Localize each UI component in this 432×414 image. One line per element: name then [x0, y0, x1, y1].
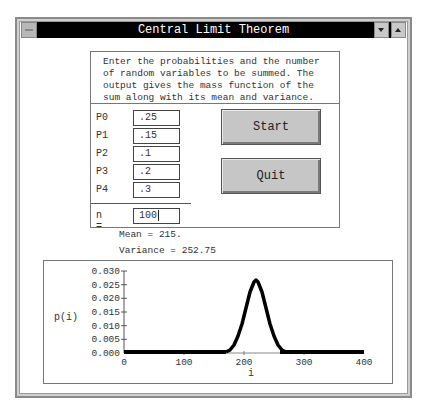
p3-label: P3 — [96, 166, 108, 177]
window-title: Central Limit Theorem — [21, 22, 406, 38]
p1-label: P1 — [96, 130, 108, 141]
quit-button[interactable]: Quit — [221, 158, 321, 194]
p1-field[interactable]: .15 — [133, 128, 180, 144]
svg-text:0: 0 — [121, 357, 127, 368]
x-axis-label: i — [248, 368, 254, 379]
p4-label: P4 — [96, 184, 108, 195]
p4-field[interactable]: .3 — [133, 182, 180, 198]
svg-text:0.030: 0.030 — [91, 266, 120, 277]
app-window: Central Limit Theorem Enter the probabil… — [15, 17, 412, 398]
n-value: 100 — [139, 210, 157, 221]
n-label: n = — [96, 210, 102, 232]
title-bar[interactable]: Central Limit Theorem — [21, 22, 406, 38]
input-panel: Enter the probabilities and the number o… — [90, 51, 340, 228]
p3-field[interactable]: .2 — [133, 164, 180, 180]
svg-text:0.015: 0.015 — [91, 307, 120, 318]
minimize-arrow-icon — [378, 28, 384, 32]
svg-text:300: 300 — [295, 357, 312, 368]
maximize-button[interactable] — [391, 22, 406, 38]
p0-label: P0 — [96, 112, 108, 123]
svg-text:100: 100 — [175, 357, 192, 368]
start-button[interactable]: Start — [221, 109, 321, 145]
svg-text:0.020: 0.020 — [91, 293, 120, 304]
minimize-button[interactable] — [374, 22, 389, 38]
svg-text:0.025: 0.025 — [91, 280, 120, 291]
variance-output: Variance = 252.75 — [119, 245, 216, 256]
maximize-arrow-icon — [395, 28, 401, 32]
plot-canvas: 0.030 0.025 0.020 0.015 0.010 0.005 0.00… — [44, 261, 394, 385]
pmf-plot: p(i) 0.030 0.025 0.020 0.0 — [43, 260, 393, 384]
p2-label: P2 — [96, 148, 108, 159]
p0-field[interactable]: .25 — [133, 110, 180, 126]
pmf-series — [124, 280, 364, 352]
svg-text:200: 200 — [235, 357, 252, 368]
svg-text:0.005: 0.005 — [91, 334, 120, 345]
p2-field[interactable]: .1 — [133, 146, 180, 162]
description-text: Enter the probabilities and the number o… — [91, 52, 339, 104]
svg-text:400: 400 — [355, 357, 372, 368]
x-tick-labels: 0 100 200 300 400 — [121, 357, 373, 368]
n-field[interactable]: 100 — [133, 208, 180, 224]
mean-output: Mean = 215. — [119, 229, 182, 240]
input-divider — [91, 203, 191, 204]
y-tick-labels: 0.030 0.025 0.020 0.015 0.010 0.005 0.00… — [91, 266, 120, 359]
svg-text:0.000: 0.000 — [91, 348, 120, 359]
text-cursor — [158, 210, 159, 221]
svg-text:0.010: 0.010 — [91, 321, 120, 332]
